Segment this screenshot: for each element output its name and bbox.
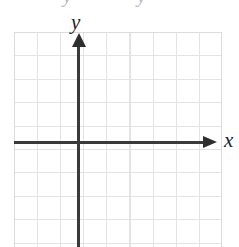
- y-axis-label: y: [71, 12, 80, 33]
- clipped-text-fragment-left: y: [63, 0, 71, 6]
- coordinate-grid-figure: y y y x: [0, 0, 239, 247]
- x-axis-label: x: [224, 130, 233, 151]
- grid-border-left: [14, 32, 15, 247]
- grid-border-top: [14, 32, 222, 33]
- y-axis-line: [77, 44, 80, 247]
- clipped-text-residue: y y: [0, 0, 239, 7]
- x-axis-line: [14, 141, 206, 144]
- arrow-up-icon: [72, 33, 86, 47]
- arrow-right-icon: [203, 136, 217, 148]
- grid-border-right: [221, 32, 222, 247]
- grid-area: [14, 32, 222, 247]
- clipped-text-fragment-right: y: [137, 0, 145, 6]
